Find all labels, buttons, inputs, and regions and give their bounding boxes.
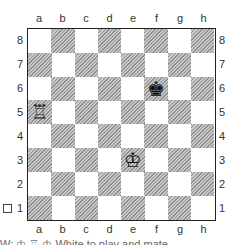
file-label-c: c bbox=[74, 223, 98, 235]
square-c7[interactable] bbox=[75, 53, 99, 77]
square-a8[interactable] bbox=[28, 29, 52, 53]
square-h1[interactable] bbox=[191, 196, 215, 220]
square-g4[interactable] bbox=[168, 124, 192, 148]
square-f4[interactable] bbox=[144, 124, 168, 148]
square-e6[interactable] bbox=[121, 77, 145, 101]
rank-label-8: 8 bbox=[216, 34, 228, 46]
square-b8[interactable] bbox=[51, 29, 75, 53]
square-a7[interactable] bbox=[28, 53, 52, 77]
square-b1[interactable] bbox=[51, 196, 75, 220]
file-label-h: h bbox=[192, 12, 216, 24]
square-b7[interactable] bbox=[51, 53, 75, 77]
square-e4[interactable] bbox=[121, 124, 145, 148]
rank-label-4: 4 bbox=[216, 130, 228, 142]
square-f7[interactable] bbox=[144, 53, 168, 77]
rank-label-7: 7 bbox=[216, 58, 228, 70]
square-g2[interactable] bbox=[168, 172, 192, 196]
square-c4[interactable] bbox=[75, 124, 99, 148]
square-b3[interactable] bbox=[51, 148, 75, 172]
square-c1[interactable] bbox=[75, 196, 99, 220]
square-g1[interactable] bbox=[168, 196, 192, 220]
file-label-b: b bbox=[51, 223, 75, 235]
square-e8[interactable] bbox=[121, 29, 145, 53]
square-h6[interactable] bbox=[191, 77, 215, 101]
file-label-d: d bbox=[98, 223, 122, 235]
square-a3[interactable] bbox=[28, 148, 52, 172]
square-h3[interactable] bbox=[191, 148, 215, 172]
square-d5[interactable] bbox=[98, 100, 122, 124]
square-b5[interactable] bbox=[51, 100, 75, 124]
square-h7[interactable] bbox=[191, 53, 215, 77]
black-king-icon[interactable]: ♚ bbox=[144, 77, 168, 101]
file-label-b: b bbox=[51, 12, 75, 24]
rank-label-5: 5 bbox=[216, 106, 228, 118]
square-h2[interactable] bbox=[191, 172, 215, 196]
rank-label-3: 3 bbox=[216, 154, 228, 166]
white-rook-icon[interactable]: ♖ bbox=[28, 100, 52, 124]
rank-label-6: 6 bbox=[216, 82, 228, 94]
square-a4[interactable] bbox=[28, 124, 52, 148]
rank-label-4: 4 bbox=[14, 130, 26, 142]
square-f3[interactable] bbox=[144, 148, 168, 172]
square-b2[interactable] bbox=[51, 172, 75, 196]
square-d1[interactable] bbox=[98, 196, 122, 220]
square-f2[interactable] bbox=[144, 172, 168, 196]
square-g8[interactable] bbox=[168, 29, 192, 53]
file-label-e: e bbox=[121, 223, 145, 235]
square-d6[interactable] bbox=[98, 77, 122, 101]
square-d3[interactable] bbox=[98, 148, 122, 172]
file-label-f: f bbox=[145, 223, 169, 235]
rank-label-5: 5 bbox=[14, 106, 26, 118]
rank-label-7: 7 bbox=[14, 58, 26, 70]
rank-label-2: 2 bbox=[216, 178, 228, 190]
square-h5[interactable] bbox=[191, 100, 215, 124]
white-king-icon[interactable]: ♔ bbox=[121, 148, 145, 172]
square-c6[interactable] bbox=[75, 77, 99, 101]
square-d2[interactable] bbox=[98, 172, 122, 196]
chessboard: ♚♖♔ bbox=[27, 28, 216, 221]
file-label-h: h bbox=[192, 223, 216, 235]
square-g5[interactable] bbox=[168, 100, 192, 124]
square-e7[interactable] bbox=[121, 53, 145, 77]
square-c5[interactable] bbox=[75, 100, 99, 124]
rank-label-1: 1 bbox=[216, 202, 228, 214]
square-h8[interactable] bbox=[191, 29, 215, 53]
square-e1[interactable] bbox=[121, 196, 145, 220]
rank-label-1: 1 bbox=[14, 202, 26, 214]
square-b6[interactable] bbox=[51, 77, 75, 101]
square-c2[interactable] bbox=[75, 172, 99, 196]
rank-label-2: 2 bbox=[14, 178, 26, 190]
square-a2[interactable] bbox=[28, 172, 52, 196]
file-label-a: a bbox=[27, 223, 51, 235]
square-a6[interactable] bbox=[28, 77, 52, 101]
square-a1[interactable] bbox=[28, 196, 52, 220]
square-f1[interactable] bbox=[144, 196, 168, 220]
square-g6[interactable] bbox=[168, 77, 192, 101]
square-f5[interactable] bbox=[144, 100, 168, 124]
file-label-c: c bbox=[74, 12, 98, 24]
square-e2[interactable] bbox=[121, 172, 145, 196]
square-c3[interactable] bbox=[75, 148, 99, 172]
square-d8[interactable] bbox=[98, 29, 122, 53]
rank-label-8: 8 bbox=[14, 34, 26, 46]
file-label-d: d bbox=[98, 12, 122, 24]
caption-text: W: ♔ ♖ ♔ White to play and mate bbox=[0, 238, 233, 245]
square-d4[interactable] bbox=[98, 124, 122, 148]
file-label-g: g bbox=[168, 12, 192, 24]
file-label-e: e bbox=[121, 12, 145, 24]
square-d7[interactable] bbox=[98, 53, 122, 77]
side-to-move-checkbox[interactable] bbox=[3, 204, 12, 213]
square-h4[interactable] bbox=[191, 124, 215, 148]
square-c8[interactable] bbox=[75, 29, 99, 53]
square-g3[interactable] bbox=[168, 148, 192, 172]
square-b4[interactable] bbox=[51, 124, 75, 148]
square-e5[interactable] bbox=[121, 100, 145, 124]
file-label-a: a bbox=[27, 12, 51, 24]
square-f8[interactable] bbox=[144, 29, 168, 53]
rank-label-6: 6 bbox=[14, 82, 26, 94]
rank-label-3: 3 bbox=[14, 154, 26, 166]
file-label-g: g bbox=[168, 223, 192, 235]
file-label-f: f bbox=[145, 12, 169, 24]
square-g7[interactable] bbox=[168, 53, 192, 77]
